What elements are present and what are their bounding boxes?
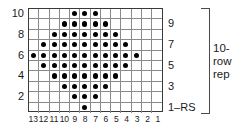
repeat-label-line2: row xyxy=(213,55,244,68)
chart-cell-purl xyxy=(60,71,70,81)
purl-dot-icon xyxy=(62,53,67,58)
column-label-4: 4 xyxy=(122,113,132,127)
purl-dot-icon xyxy=(72,73,77,78)
purl-dot-icon xyxy=(52,73,57,78)
chart-cell-knit xyxy=(60,9,70,19)
chart-cell-knit xyxy=(121,30,131,40)
purl-dot-icon xyxy=(82,42,87,47)
purl-dot-icon xyxy=(103,32,108,37)
chart-cell-purl xyxy=(80,82,90,92)
chart-cell-knit xyxy=(111,9,121,19)
purl-dot-icon xyxy=(123,53,128,58)
purl-dot-icon xyxy=(103,53,108,58)
chart-cell-purl xyxy=(80,103,90,113)
purl-dot-icon xyxy=(62,42,67,47)
purl-dot-icon xyxy=(82,11,87,16)
chart-cell-knit xyxy=(50,82,60,92)
chart-cell-purl xyxy=(111,51,121,61)
row-label-10: 10 xyxy=(0,8,24,18)
chart-cell-purl xyxy=(91,9,101,19)
row-label-6: 6 xyxy=(0,50,24,60)
chart-cell-purl xyxy=(60,51,70,61)
purl-dot-icon xyxy=(93,21,98,26)
purl-dot-icon xyxy=(93,63,98,68)
purl-dot-icon xyxy=(72,42,77,47)
chart-cell-knit xyxy=(39,9,49,19)
row-label-7: 7 xyxy=(168,39,174,49)
column-labels: 13121110987654321 xyxy=(28,113,163,127)
chart-cell-knit xyxy=(50,9,60,19)
purl-dot-icon xyxy=(93,73,98,78)
chart-cell-purl xyxy=(101,30,111,40)
column-label-9: 9 xyxy=(70,113,80,127)
chart-cell-purl xyxy=(50,51,60,61)
chart-cell-knit xyxy=(111,103,121,113)
chart-cell-knit xyxy=(50,103,60,113)
purl-dot-icon xyxy=(82,32,87,37)
chart-cell-purl xyxy=(91,61,101,71)
purl-dot-icon xyxy=(31,53,36,58)
column-label-13: 13 xyxy=(28,113,38,127)
chart-cell-purl xyxy=(29,51,39,61)
chart-cell-knit xyxy=(39,30,49,40)
chart-cell-knit xyxy=(121,71,131,81)
chart-cell-purl xyxy=(39,51,49,61)
chart-cell-purl xyxy=(111,71,121,81)
purl-dot-icon xyxy=(52,42,57,47)
chart-cell-purl xyxy=(132,51,142,61)
chart-cell-knit xyxy=(29,30,39,40)
chart-cell-knit xyxy=(29,92,39,102)
chart-cell-purl xyxy=(101,51,111,61)
chart-cell-knit xyxy=(101,103,111,113)
column-label-10: 10 xyxy=(59,113,69,127)
chart-cell-knit xyxy=(121,82,131,92)
chart-cell-knit xyxy=(132,103,142,113)
chart-cell-knit xyxy=(142,30,152,40)
chart-cell-knit xyxy=(111,92,121,102)
chart-cell-knit xyxy=(142,9,152,19)
chart-cell-purl xyxy=(70,9,80,19)
column-label-11: 11 xyxy=(49,113,59,127)
purl-dot-icon xyxy=(93,84,98,89)
chart-cell-purl xyxy=(70,51,80,61)
chart-cell-purl xyxy=(70,82,80,92)
purl-dot-icon xyxy=(72,63,77,68)
column-label-1: 1 xyxy=(153,113,163,127)
chart-row xyxy=(29,71,162,81)
chart-cell-purl xyxy=(121,40,131,50)
chart-cell-purl xyxy=(80,19,90,29)
chart-cell-knit xyxy=(91,103,101,113)
chart-row xyxy=(29,92,162,102)
purl-dot-icon xyxy=(82,84,87,89)
purl-dot-icon xyxy=(123,63,128,68)
chart-cell-purl xyxy=(60,82,70,92)
chart-cell-purl xyxy=(70,19,80,29)
knitting-chart-figure: 108642 97531–RS 13121110987654321 10- ro… xyxy=(0,0,244,136)
chart-cell-purl xyxy=(50,30,60,40)
chart-cell-purl xyxy=(91,19,101,29)
chart-row xyxy=(29,103,162,113)
column-label-8: 8 xyxy=(80,113,90,127)
purl-dot-icon xyxy=(41,63,46,68)
chart-cell-knit xyxy=(132,92,142,102)
chart-cell-knit xyxy=(142,40,152,50)
purl-dot-icon xyxy=(103,21,108,26)
chart-cell-purl xyxy=(80,30,90,40)
column-label-5: 5 xyxy=(111,113,121,127)
chart-cell-purl xyxy=(60,19,70,29)
chart-cell-knit xyxy=(152,82,162,92)
chart-cell-knit xyxy=(142,61,152,71)
purl-dot-icon xyxy=(52,63,57,68)
column-label-3: 3 xyxy=(132,113,142,127)
purl-dot-icon xyxy=(82,53,87,58)
chart-cell-purl xyxy=(91,71,101,81)
chart-cell-knit xyxy=(132,71,142,81)
chart-cell-purl xyxy=(101,82,111,92)
chart-cell-purl xyxy=(111,61,121,71)
chart-cell-purl xyxy=(39,61,49,71)
chart-cell-knit xyxy=(101,9,111,19)
chart-cell-knit xyxy=(152,30,162,40)
chart-cell-knit xyxy=(121,103,131,113)
chart-cell-purl xyxy=(39,40,49,50)
chart-cell-knit xyxy=(142,71,152,81)
